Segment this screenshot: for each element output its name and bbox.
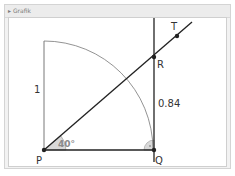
point-p[interactable] (42, 148, 46, 152)
right-angle-dot (149, 145, 151, 147)
point-r[interactable] (152, 55, 156, 59)
canvas-border (9, 18, 227, 167)
label-q: Q (155, 155, 163, 166)
label-p: P (36, 155, 42, 166)
label-radius: 1 (34, 84, 40, 95)
point-q[interactable] (152, 148, 156, 152)
label-qr-length: 0.84 (158, 98, 180, 109)
point-t[interactable] (175, 34, 179, 38)
label-r: R (157, 59, 164, 70)
label-angle: 40° (58, 139, 75, 149)
geometry-canvas[interactable]: P Q R T 1 0.84 40° (0, 0, 235, 176)
label-t: T (170, 21, 178, 32)
